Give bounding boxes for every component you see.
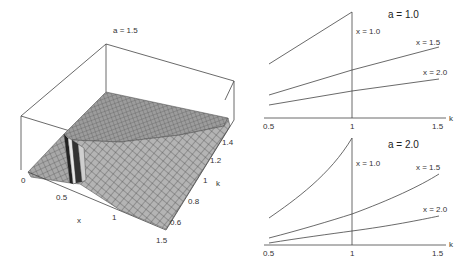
k-tick-1: 1 bbox=[203, 176, 208, 185]
label-x2: x = 2.0 bbox=[423, 205, 448, 214]
k-tick-1.2: 1.2 bbox=[210, 156, 222, 165]
curve-x2 bbox=[269, 216, 439, 243]
x-tick-1: 1 bbox=[112, 213, 117, 222]
figure: a = 1.5 0 bbox=[0, 0, 469, 273]
x-tick-0: 0 bbox=[21, 176, 26, 185]
curve-x1.5 bbox=[269, 47, 439, 95]
label-x1: x = 1.0 bbox=[356, 27, 381, 36]
line-plot-a1: a = 1.0 x = 1.0 x = 1.5 x = 2.0 0.5 1 1.… bbox=[263, 9, 454, 131]
k-axis-label: k bbox=[216, 179, 221, 188]
label-x1.5: x = 1.5 bbox=[416, 38, 441, 47]
curve-x1 bbox=[269, 12, 352, 64]
curve-x1 bbox=[269, 138, 352, 218]
x-axis-label: x bbox=[77, 216, 81, 225]
surface-plateau-left bbox=[28, 134, 70, 183]
k-tick-0.8: 0.8 bbox=[188, 197, 200, 206]
tick-1: 1 bbox=[350, 249, 355, 258]
bottom-plot-title: a = 2.0 bbox=[388, 139, 419, 150]
x-tick-0.5: 0.5 bbox=[56, 193, 68, 202]
tick-0.5: 0.5 bbox=[263, 122, 275, 131]
tick-1.5: 1.5 bbox=[432, 122, 444, 131]
k-tick-0.6: 0.6 bbox=[170, 218, 182, 227]
surface-plot-title: a = 1.5 bbox=[113, 26, 138, 35]
x-tick-1.5: 1.5 bbox=[156, 236, 168, 245]
axis-label-k: k bbox=[449, 240, 454, 249]
top-plot-title: a = 1.0 bbox=[388, 9, 419, 20]
label-x2: x = 2.0 bbox=[423, 68, 448, 77]
tick-1: 1 bbox=[350, 122, 355, 131]
line-plot-a2: a = 2.0 x = 1.0 x = 1.5 x = 2.0 0.5 1 1.… bbox=[263, 138, 454, 258]
curve-x1.5 bbox=[269, 174, 439, 238]
label-x1.5: x = 1.5 bbox=[416, 163, 441, 172]
tick-1.5: 1.5 bbox=[432, 249, 444, 258]
axis-label-k: k bbox=[449, 114, 454, 123]
label-x1: x = 1.0 bbox=[356, 159, 381, 168]
tick-0.5: 0.5 bbox=[263, 249, 275, 258]
surface-plot-3d: a = 1.5 0 bbox=[21, 26, 234, 245]
curve-x2 bbox=[269, 79, 439, 105]
k-tick-1.4: 1.4 bbox=[222, 138, 234, 147]
